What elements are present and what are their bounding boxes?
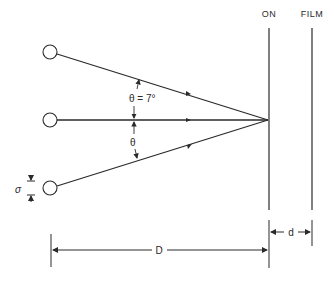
angle-value-label: θ = 7° bbox=[129, 93, 156, 104]
source-middle-circle bbox=[43, 113, 57, 127]
sigma-label: σ bbox=[15, 184, 22, 195]
on-screen-label: ON bbox=[262, 9, 277, 19]
source-top-circle bbox=[43, 45, 57, 59]
ray-top bbox=[57, 54, 268, 120]
angle-top-arrow-upper bbox=[137, 80, 139, 89]
distance-D-label: D bbox=[155, 245, 162, 256]
distance-d-label: d bbox=[288, 227, 294, 238]
ray-middle-direction-arrow bbox=[186, 118, 191, 122]
angle-bottom-arrow-lower bbox=[135, 149, 137, 158]
film-label: FILM bbox=[301, 9, 324, 19]
geometry-diagram: ON FILM θ = 7° θ σ D d bbox=[0, 0, 334, 284]
angle-symbol-label: θ bbox=[130, 137, 136, 148]
ray-bottom bbox=[57, 120, 268, 186]
source-bottom-circle bbox=[43, 181, 57, 195]
